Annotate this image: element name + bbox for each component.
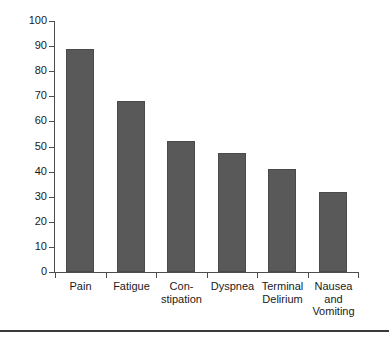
- y-axis-tick: [49, 46, 54, 47]
- y-axis-tick-label: 40: [35, 166, 47, 177]
- category-label-line: Vomiting: [308, 305, 359, 318]
- y-axis-tick: [49, 172, 54, 173]
- y-axis-tick-label: 80: [35, 65, 47, 76]
- x-axis-tick: [156, 273, 157, 278]
- y-axis-tick: [49, 71, 54, 72]
- y-axis-tick: [49, 96, 54, 97]
- y-axis-tick: [49, 121, 54, 122]
- category-label-line: Delirium: [257, 293, 308, 306]
- category-label-line: Dyspnea: [207, 280, 258, 293]
- bottom-divider: [0, 330, 389, 332]
- x-axis-tick: [308, 273, 309, 278]
- y-axis-tick: [49, 21, 54, 22]
- y-axis-tick-label: 50: [35, 141, 47, 152]
- y-axis-tick-label: 20: [35, 216, 47, 227]
- bar-3: [167, 141, 195, 272]
- x-axis-category-label: Dyspnea: [207, 280, 258, 293]
- category-label-line: Pain: [55, 280, 106, 293]
- x-axis-category-label: TerminalDelirium: [257, 280, 308, 305]
- x-axis-category-label: Fatigue: [106, 280, 157, 293]
- y-axis-tick: [49, 147, 54, 148]
- plot-area: [55, 21, 358, 272]
- y-axis-tick-label: 0: [41, 266, 47, 277]
- bar-1: [66, 49, 94, 272]
- bar-chart-figure: 1009080706050403020100 PainFatigueCon-st…: [0, 0, 389, 338]
- x-axis-tick: [55, 273, 56, 278]
- x-axis-category-label: Pain: [55, 280, 106, 293]
- y-axis-tick: [49, 272, 54, 273]
- y-axis-tick: [49, 197, 54, 198]
- category-label-line: stipation: [156, 293, 207, 306]
- y-axis-tick-label: 10: [35, 241, 47, 252]
- y-axis-tick-label: 100: [29, 15, 47, 26]
- bar-6: [319, 192, 347, 272]
- y-axis-tick-label: 90: [35, 40, 47, 51]
- x-axis-category-label: NauseaandVomiting: [308, 280, 359, 318]
- y-axis-tick-label: 70: [35, 90, 47, 101]
- x-axis-tick: [257, 273, 258, 278]
- x-axis-tick: [358, 273, 359, 278]
- category-label-line: and: [308, 293, 359, 306]
- x-axis-tick: [106, 273, 107, 278]
- x-axis-category-label: Con-stipation: [156, 280, 207, 305]
- category-label-line: Con-: [156, 280, 207, 293]
- y-axis-tick: [49, 222, 54, 223]
- x-axis-tick: [207, 273, 208, 278]
- y-axis-tick-label: 30: [35, 191, 47, 202]
- bar-5: [268, 169, 296, 272]
- category-label-line: Fatigue: [106, 280, 157, 293]
- category-label-line: Terminal: [257, 280, 308, 293]
- bar-2: [117, 101, 145, 272]
- y-axis-tick-label: 60: [35, 115, 47, 126]
- category-label-line: Nausea: [308, 280, 359, 293]
- bar-4: [218, 153, 246, 272]
- y-axis-tick: [49, 247, 54, 248]
